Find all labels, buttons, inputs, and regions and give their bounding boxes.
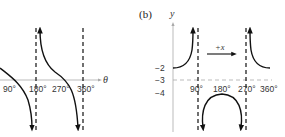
chart-a-curve-2 — [40, 30, 78, 128]
chart-b-curve-left — [173, 30, 193, 68]
chart-b-ytick-minus2: −2 — [155, 63, 165, 73]
chart-b-ytick-minus3: −3 — [155, 75, 165, 85]
chart-b-panel-label: (b) — [139, 8, 152, 21]
chart-a-tick-270: 270° — [52, 84, 70, 94]
chart-a-theta-label: θ — [103, 74, 108, 85]
chart-b-tick-360: 360° — [260, 84, 278, 94]
chart-b-tick-270: 270° — [238, 84, 256, 94]
chart-a-tick-90: 90° — [3, 84, 16, 94]
chart-b-y-label: y — [169, 8, 175, 19]
chart-a-curve-1 — [0, 68, 32, 128]
figure-canvas: θ 90° 180° 270° 360° (b) y −2 −3 −4 90° … — [0, 0, 285, 137]
chart-b-tick-180: 180° — [213, 84, 231, 94]
chart-b: (b) y −2 −3 −4 90° 180° 270° 360° +x — [139, 8, 278, 132]
chart-b-curve-middle — [202, 94, 241, 128]
chart-b-shift-label: +x — [215, 42, 225, 52]
chart-a-tick-180: 180° — [29, 84, 47, 94]
chart-b-curve-right — [250, 30, 270, 68]
chart-b-ytick-minus4: −4 — [155, 88, 165, 98]
chart-b-tick-90: 90° — [190, 84, 203, 94]
chart-a-tick-360: 360° — [77, 84, 95, 94]
chart-a: θ 90° 180° 270° 360° — [0, 28, 108, 132]
